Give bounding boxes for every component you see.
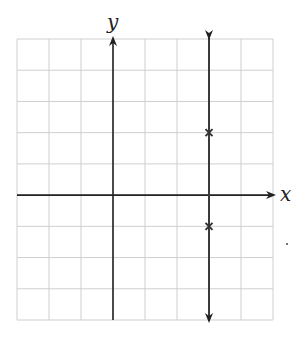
- axes: x y: [17, 10, 291, 320]
- stray-dot: [286, 243, 288, 245]
- coordinate-plane: x y: [0, 0, 308, 337]
- y-axis-label: y: [106, 10, 119, 34]
- grid-lines: [17, 39, 273, 320]
- x-axis-label: x: [280, 182, 291, 206]
